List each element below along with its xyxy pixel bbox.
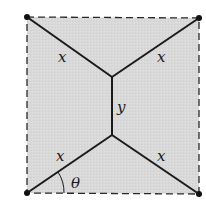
diagram-canvas: x x y x x θ xyxy=(0,0,206,203)
label-angle-theta: θ xyxy=(71,174,80,192)
vertex-bottom-right xyxy=(196,191,202,197)
label-middle-y: y xyxy=(116,98,126,116)
label-top-right-x: x xyxy=(157,48,166,66)
label-bottom-right-x: x xyxy=(157,147,166,165)
label-bottom-left-x: x xyxy=(56,147,65,165)
label-top-left-x: x xyxy=(58,48,67,66)
vertex-bottom-left xyxy=(24,190,30,196)
vertex-top-right xyxy=(196,15,202,21)
vertex-top-left xyxy=(24,14,30,20)
